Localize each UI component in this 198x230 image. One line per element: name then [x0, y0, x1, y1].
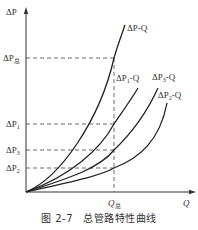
label-curve-p2: ΔP2-Q	[158, 90, 182, 101]
tick-p3: ΔP3	[6, 145, 20, 156]
label-curve-total: ΔP-Q	[127, 23, 148, 33]
tick-q-total: Q总	[108, 198, 121, 209]
label-curve-p3: ΔP3-Q	[152, 72, 176, 83]
label-curve-p1: ΔP1-Q	[116, 73, 140, 84]
characteristic-chart: ΔP Q ΔP总 ΔP1 ΔP3 ΔP2 Q总 ΔP-Q ΔP1-Q ΔP3-Q…	[0, 0, 198, 230]
curves	[26, 25, 167, 192]
figure-caption: 图 2-7 总管路特性曲线	[0, 210, 198, 225]
y-axis-label: ΔP	[6, 7, 17, 17]
y-axis-arrow-icon	[24, 7, 28, 14]
x-axis-label: Q	[183, 198, 190, 208]
tick-p1: ΔP1	[6, 119, 20, 130]
reference-lines	[26, 58, 114, 192]
curve-total	[26, 25, 125, 192]
tick-p2: ΔP2	[6, 163, 20, 174]
curve-p1	[26, 88, 138, 192]
x-axis-arrow-icon	[189, 190, 196, 194]
tick-p-total: ΔP总	[3, 53, 20, 64]
axes	[26, 10, 193, 192]
